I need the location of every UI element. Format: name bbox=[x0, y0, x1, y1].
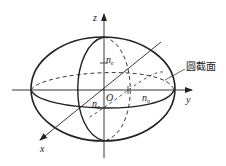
equator-back bbox=[31, 73, 174, 90]
section-label: 圆截面 bbox=[186, 60, 216, 72]
y-label: y bbox=[185, 94, 191, 105]
x-label: x bbox=[39, 143, 45, 154]
meridian-front bbox=[78, 37, 104, 141]
section-leader bbox=[165, 69, 185, 80]
z-label: z bbox=[92, 12, 97, 23]
no-y-label: no bbox=[142, 92, 150, 104]
ne-label: ne bbox=[106, 54, 114, 66]
equator-front bbox=[31, 90, 174, 108]
origin-label: O bbox=[106, 92, 113, 103]
circular-section bbox=[88, 72, 163, 118]
no-x-label: no bbox=[92, 98, 100, 110]
index-ellipsoid-diagram: z y x O ne no no 圆截面 bbox=[0, 0, 226, 166]
meridian-back bbox=[104, 37, 130, 141]
x-axis[interactable] bbox=[40, 42, 161, 140]
